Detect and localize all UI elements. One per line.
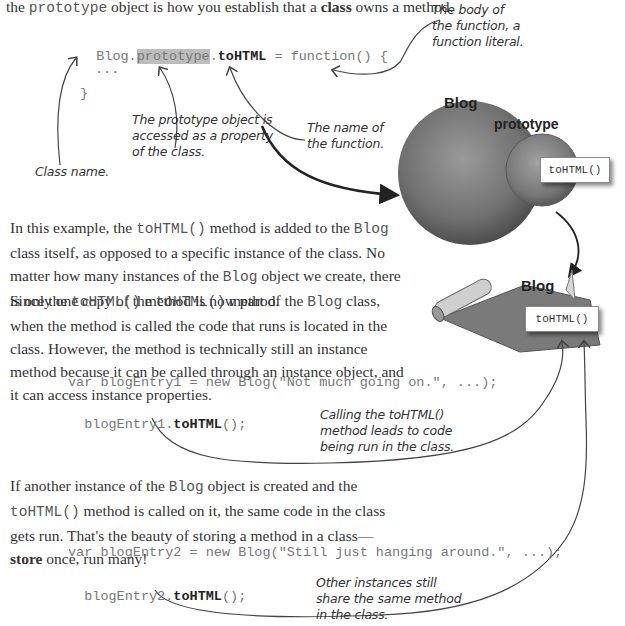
annotation-function-name: The name of the function.	[307, 120, 384, 152]
code-ellipsis: ...	[95, 62, 119, 77]
annotation-calling-method: Calling the toHTML() method leads to cod…	[320, 407, 454, 455]
code-blog-entry-1-create: var blogEntry1 = new Blog("Not much goin…	[68, 375, 497, 390]
diagram-blog-label-bottom: Blog	[521, 277, 554, 294]
method-box-prototype: toHTML()	[540, 157, 610, 183]
intro-line: the prototype object is how you establis…	[6, 0, 453, 20]
method-box-class: toHTML()	[525, 306, 599, 332]
code-closing-brace: }	[80, 86, 88, 101]
diagram-blog-label-top: Blog	[444, 94, 477, 111]
code-block-prototype: Blog.prototype.toHTML = function() {	[80, 34, 388, 64]
class-name-arrow	[58, 58, 76, 165]
code-blog-entry-2-create: var blogEntry2 = new Blog("Still just ha…	[68, 545, 562, 560]
code-blog-entry-2-call: blogEntry2.toHTML();	[68, 574, 246, 604]
sphere-to-paper-arrow	[556, 212, 578, 275]
code-blog-entry-1-call: blogEntry1.toHTML();	[68, 402, 246, 432]
annotation-class-name: Class name.	[35, 164, 109, 180]
diagram-prototype-label: prototype	[494, 116, 559, 132]
annotation-other-instances: Other instances still share the same met…	[316, 575, 461, 623]
prototype-highlight: prototype	[137, 49, 210, 64]
annotation-prototype-object: The prototype object is accessed as a pr…	[132, 112, 273, 160]
annotation-function-body: The body of the function, a function lit…	[432, 2, 523, 50]
